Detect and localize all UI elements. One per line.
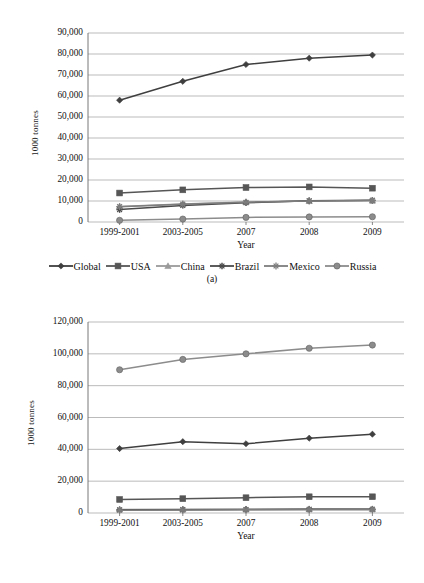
data-point-marker (180, 356, 186, 362)
data-point-marker (369, 342, 375, 348)
y-axis-tick-label: 80,000 (30, 380, 83, 390)
legend-label: China (181, 261, 205, 272)
legend-marker-icon (155, 260, 181, 272)
data-point-marker (243, 61, 249, 67)
y-axis-tick-label: 0 (30, 507, 83, 517)
y-axis-title: 1000 tonnes (30, 110, 40, 156)
x-axis-tick-label: 1999-2001 (85, 518, 155, 528)
chart-a: 010,00020,00030,00040,00050,00060,00070,… (0, 0, 424, 250)
data-point-marker (180, 496, 186, 502)
legend-label: USA (131, 261, 151, 272)
data-point-marker (306, 184, 312, 190)
data-point-marker (369, 52, 375, 58)
y-axis-tick-label: 70,000 (30, 69, 83, 79)
legend-item-russia[interactable]: Russia (324, 259, 377, 272)
legend-item-brazil[interactable]: Brazil (209, 259, 259, 272)
x-axis-title: Year (88, 240, 404, 250)
y-axis-tick-label: 80,000 (30, 48, 83, 58)
y-axis-tick-label: 20,000 (30, 475, 83, 485)
y-axis-tick-label: 20,000 (30, 174, 83, 184)
x-axis-tick-label: 2009 (337, 518, 407, 528)
legend-marker-icon (324, 260, 350, 272)
data-point-marker (180, 78, 186, 84)
data-point-marker (306, 345, 312, 351)
series-china (117, 431, 376, 452)
data-point-marker (369, 197, 376, 204)
data-point-marker (117, 497, 123, 503)
data-point-marker (117, 367, 123, 373)
x-axis-tick-label: 2007 (211, 518, 281, 528)
plot-canvas (0, 0, 424, 250)
legend-marker-icon (105, 260, 131, 272)
legend-label: Russia (350, 261, 377, 272)
x-axis-tick-label: 2003-2005 (148, 227, 218, 237)
data-point-marker (116, 507, 123, 514)
data-point-marker (243, 199, 250, 206)
data-point-marker (180, 187, 186, 193)
data-point-marker (306, 214, 312, 220)
data-point-marker (306, 494, 312, 500)
data-point-marker (243, 441, 249, 447)
series-global (117, 52, 376, 103)
chart-b: 020,00040,00060,00080,000100,000120,0001… (0, 292, 424, 542)
data-point-marker (369, 214, 375, 220)
legend-item-global[interactable]: Global (48, 259, 101, 272)
series-usa (117, 494, 376, 503)
legend-marker-icon (209, 260, 235, 272)
caption-a: (a) (0, 274, 424, 284)
y-axis-title: 1000 tonnes (26, 400, 36, 446)
x-axis-tick-label: 1999-2001 (85, 227, 155, 237)
series-global (117, 342, 376, 373)
y-axis-tick-label: 0 (30, 216, 83, 226)
x-axis-tick-label: 2009 (337, 227, 407, 237)
legend-label: Brazil (235, 261, 259, 272)
data-point-marker (370, 494, 376, 500)
legend-marker-icon (263, 260, 289, 272)
data-point-marker (116, 203, 123, 210)
data-point-marker (243, 185, 249, 191)
x-axis-tick-label: 2008 (274, 227, 344, 237)
data-point-marker (369, 506, 376, 513)
legend-item-usa[interactable]: USA (105, 259, 151, 272)
legend-item-china[interactable]: China (155, 259, 205, 272)
data-point-marker (180, 216, 186, 222)
data-point-marker (369, 431, 375, 437)
chart-a-legend: GlobalUSAChinaBrazilMexicoRussia (0, 259, 424, 272)
y-axis-tick-label: 90,000 (30, 27, 83, 37)
data-point-marker (179, 201, 186, 208)
series-usa (117, 184, 376, 196)
data-point-marker (370, 185, 376, 191)
x-axis-tick-label: 2003-2005 (148, 518, 218, 528)
series-line (120, 345, 373, 370)
y-axis-tick-label: 40,000 (30, 443, 83, 453)
data-point-marker (306, 435, 312, 441)
data-point-marker (243, 506, 250, 513)
x-axis-tick-label: 2008 (274, 518, 344, 528)
legend-label: Mexico (289, 261, 320, 272)
y-axis-tick-label: 10,000 (30, 195, 83, 205)
series-russia (116, 506, 376, 513)
data-point-marker (243, 351, 249, 357)
data-point-marker (306, 55, 312, 61)
figure-panel-b: 020,00040,00060,00080,000100,000120,0001… (0, 292, 424, 583)
data-point-marker (243, 495, 249, 501)
data-point-marker (117, 97, 123, 103)
y-axis-tick-label: 60,000 (30, 412, 83, 422)
y-axis-tick-label: 60,000 (30, 90, 83, 100)
series-mexico (116, 197, 376, 210)
data-point-marker (117, 445, 123, 451)
legend-marker-icon (48, 260, 74, 272)
data-point-marker (117, 217, 123, 223)
y-axis-tick-label: 120,000 (30, 316, 83, 326)
legend-item-mexico[interactable]: Mexico (263, 259, 320, 272)
data-point-marker (117, 190, 123, 196)
x-axis-tick-label: 2007 (211, 227, 281, 237)
y-axis-tick-label: 100,000 (30, 348, 83, 358)
legend-label: Global (74, 261, 101, 272)
data-point-marker (243, 214, 249, 220)
x-axis-title: Year (88, 531, 404, 541)
data-point-marker (180, 439, 186, 445)
figure-panel-a: 010,00020,00030,00040,00050,00060,00070,… (0, 0, 424, 292)
